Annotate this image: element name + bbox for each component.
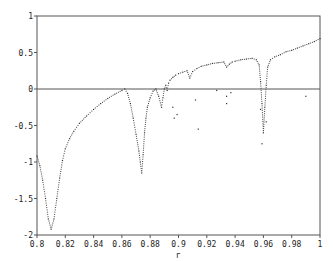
data-point — [162, 102, 163, 103]
data-point — [131, 107, 132, 108]
data-point — [195, 99, 196, 100]
data-point — [62, 162, 63, 163]
data-point — [132, 116, 133, 117]
data-point — [41, 176, 42, 177]
data-point — [59, 182, 60, 183]
data-point — [236, 60, 237, 61]
data-point — [45, 200, 46, 201]
data-point — [42, 178, 43, 179]
data-point — [133, 120, 134, 121]
x-tick-label: 0.98 — [282, 240, 301, 249]
data-point — [178, 73, 179, 74]
data-point — [62, 160, 63, 161]
data-point — [302, 45, 303, 46]
data-point — [39, 165, 40, 166]
data-point — [104, 101, 105, 102]
data-point — [265, 98, 266, 99]
data-point — [139, 153, 140, 154]
data-point — [263, 122, 264, 123]
data-point — [265, 102, 266, 103]
data-point — [83, 118, 84, 119]
data-point — [167, 90, 168, 91]
data-point — [269, 63, 270, 64]
data-point — [41, 173, 42, 174]
data-point — [53, 218, 54, 219]
data-point — [201, 66, 202, 67]
x-tick-label: 0.8 — [30, 240, 45, 249]
data-point — [175, 75, 176, 76]
data-point — [78, 125, 79, 126]
data-point — [180, 72, 181, 73]
data-point — [262, 112, 263, 113]
data-point — [261, 92, 262, 93]
data-point — [266, 83, 267, 84]
data-point — [68, 140, 69, 141]
data-point — [129, 101, 130, 102]
data-point — [263, 128, 264, 129]
data-point — [159, 98, 160, 99]
data-point — [221, 62, 222, 63]
data-point — [86, 115, 87, 116]
data-point — [244, 59, 245, 60]
data-point — [121, 90, 122, 91]
x-tick-label: 0.88 — [141, 240, 160, 249]
data-point — [55, 205, 56, 206]
data-point — [225, 65, 226, 66]
data-point — [301, 46, 302, 47]
data-point — [61, 169, 62, 170]
x-tick-label: 1 — [318, 240, 323, 249]
data-point — [299, 47, 300, 48]
data-point — [146, 116, 147, 117]
data-point — [308, 43, 309, 44]
data-point — [264, 109, 265, 110]
data-point — [258, 63, 259, 64]
data-point — [134, 125, 135, 126]
data-point — [198, 129, 199, 130]
data-point — [261, 97, 262, 98]
data-point — [58, 189, 59, 190]
data-point — [133, 118, 134, 119]
data-point — [263, 124, 264, 125]
data-point — [149, 99, 150, 100]
data-point — [259, 64, 260, 65]
data-point — [182, 72, 183, 73]
data-point — [64, 151, 65, 152]
data-point — [67, 142, 68, 143]
data-point — [45, 198, 46, 199]
data-point — [264, 115, 265, 116]
data-point — [184, 71, 185, 72]
data-point — [56, 203, 57, 204]
data-point — [41, 171, 42, 172]
data-point — [164, 88, 165, 89]
data-point — [65, 148, 66, 149]
data-point — [319, 38, 320, 39]
data-point — [132, 114, 133, 115]
data-point — [146, 111, 147, 112]
data-point — [48, 216, 49, 217]
data-point — [129, 99, 130, 100]
data-point — [147, 107, 148, 108]
data-point — [50, 227, 51, 228]
data-point — [285, 51, 286, 52]
data-point — [276, 56, 277, 57]
data-points — [36, 38, 320, 230]
data-point — [261, 101, 262, 102]
data-point — [90, 112, 91, 113]
data-point — [143, 143, 144, 144]
data-point — [48, 220, 49, 221]
data-point — [39, 163, 40, 164]
data-point — [264, 105, 265, 106]
data-point — [165, 85, 166, 86]
data-point — [145, 126, 146, 127]
data-point — [158, 96, 159, 97]
data-point — [143, 148, 144, 149]
data-point — [304, 45, 305, 46]
y-tick-label: -0.5 — [14, 122, 33, 131]
data-point — [118, 92, 119, 93]
data-point — [36, 156, 37, 157]
data-point — [44, 189, 45, 190]
x-tick-label: 0.94 — [225, 240, 244, 249]
data-point — [270, 59, 271, 60]
plot-frame — [37, 16, 320, 235]
data-point — [53, 220, 54, 221]
